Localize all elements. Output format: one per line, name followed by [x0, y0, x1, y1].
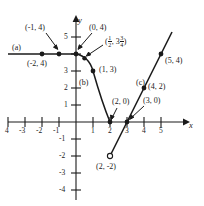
point-3-0 — [125, 120, 130, 125]
point-0-4 — [74, 52, 79, 57]
x-axis-label: x — [189, 121, 193, 130]
point-label-1-3: (1, 3) — [99, 66, 116, 74]
y-tick-label--3: -3 — [59, 169, 65, 177]
y-axis — [73, 15, 80, 200]
y-tick-label-3: 3 — [64, 67, 68, 75]
point-2-neg2-open — [107, 153, 112, 158]
y-axis-label: y — [78, 16, 82, 25]
x-tick-label--4: 4 — [5, 127, 9, 135]
segment-label-c: (c) — [136, 79, 145, 87]
point-neg1-4 — [57, 52, 62, 57]
point-label-2-neg2: (2, -2) — [96, 163, 116, 171]
x-tick-label--2: -2 — [36, 127, 42, 135]
y-tick-label-5: 5 — [64, 33, 68, 41]
arrow-half — [88, 45, 103, 55]
x-axis — [8, 119, 190, 126]
x-tick-label-1: 1 — [91, 127, 95, 135]
point-label-4-2: (4, 2) — [148, 83, 165, 91]
segment-c-line — [110, 32, 172, 156]
point-half-3.75 — [82, 56, 86, 60]
fraction-three-quarters: 34 — [120, 35, 124, 49]
point-label-2-0: (2, 0) — [112, 98, 129, 106]
y-tick-label--2: -2 — [59, 152, 65, 160]
point-neg2-4 — [40, 52, 45, 57]
x-tick-label-5: 5 — [159, 127, 163, 135]
segment-label-a: (a) — [12, 44, 21, 52]
y-tick-label-2: 2 — [64, 84, 68, 92]
fraction-one-half: 12 — [108, 35, 112, 49]
point-label-3-0: (3, 0) — [143, 97, 160, 105]
x-tick-label-3: 3 — [125, 127, 129, 135]
point-label-neg1-4: (-1, 4) — [25, 24, 45, 32]
data-point-markers — [40, 52, 164, 125]
graph-figure: 4 -3 -2 -1 1 2 3 4 5 5 3 2 1 -1 -2 -3 -4… — [0, 0, 204, 206]
y-tick-label-1: 1 — [64, 101, 68, 109]
point-5-4 — [159, 52, 164, 57]
point-2-0 — [108, 120, 113, 125]
x-tick-label-4: 4 — [142, 127, 146, 135]
x-tick-label--3: -3 — [19, 127, 25, 135]
x-tick-label-2: 2 — [108, 127, 112, 135]
y-tick-label--1: -1 — [59, 135, 65, 143]
point-label-neg2-4: (-2, 4) — [27, 60, 47, 68]
paren-close: ) — [124, 37, 127, 46]
y-tick-label--4: -4 — [59, 186, 65, 194]
segment-label-b: (b) — [79, 79, 88, 87]
point-1-3 — [91, 69, 96, 74]
point-label-0-4: (0, 4) — [89, 24, 106, 32]
point-label-5-4: (5, 4) — [165, 57, 182, 65]
point-label-half-3-3-4: (12, 334) — [105, 35, 126, 49]
mixed-number-three-three-quarters: 334 — [116, 35, 124, 49]
